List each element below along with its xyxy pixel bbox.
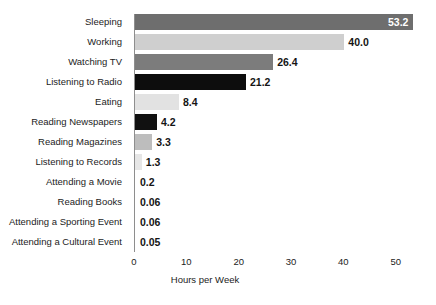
bar-value-label: 1.3	[146, 154, 161, 170]
x-tick-label: 40	[338, 256, 349, 267]
x-tick-label: 50	[390, 256, 401, 267]
bar-row: 8.4	[134, 94, 414, 110]
category-label: Working	[0, 34, 128, 50]
bar-row: 0.2	[134, 174, 414, 190]
bar	[135, 14, 413, 30]
category-label: Attending a Sporting Event	[0, 214, 128, 230]
bar	[135, 94, 179, 110]
bar-row: 1.3	[134, 154, 414, 170]
x-tick-label: 20	[233, 256, 244, 267]
bar	[135, 114, 157, 130]
bar-value-label: 8.4	[183, 94, 198, 110]
bar	[135, 154, 142, 170]
bar-row: 40.0	[134, 34, 414, 50]
category-label: Attending a Movie	[0, 174, 128, 190]
x-axis-title: Hours per Week	[134, 274, 276, 285]
bar-value-label: 21.2	[250, 74, 270, 90]
bar-value-label: 3.3	[156, 134, 171, 150]
bar-row: 3.3	[134, 134, 414, 150]
category-label: Eating	[0, 94, 128, 110]
x-tick-label: 30	[286, 256, 297, 267]
category-label: Listening to Records	[0, 154, 128, 170]
bar-value-label: 53.2	[388, 14, 408, 30]
bar-value-label: 40.0	[348, 34, 368, 50]
bar-row: 0.06	[134, 214, 414, 230]
plot-area: 53.240.026.421.28.44.23.31.30.20.060.060…	[134, 14, 414, 252]
bar-row: 53.2	[134, 14, 414, 30]
bar	[135, 54, 273, 70]
bar-row: 0.05	[134, 234, 414, 250]
category-label: Sleeping	[0, 14, 128, 30]
bar-row: 26.4	[134, 54, 414, 70]
x-axis-ticks: 01020304050	[134, 252, 414, 272]
bar-value-label: 0.06	[140, 214, 160, 230]
category-axis-labels: SleepingWorkingWatching TVListening to R…	[0, 14, 128, 254]
category-label: Watching TV	[0, 54, 128, 70]
category-label: Attending a Cultural Event	[0, 234, 128, 250]
bar-chart: SleepingWorkingWatching TVListening to R…	[0, 0, 436, 305]
x-tick-label: 0	[131, 256, 136, 267]
category-label: Reading Magazines	[0, 134, 128, 150]
bar	[135, 74, 246, 90]
bar-value-label: 0.06	[140, 194, 160, 210]
bar-row: 4.2	[134, 114, 414, 130]
category-label: Reading Newspapers	[0, 114, 128, 130]
category-label: Reading Books	[0, 194, 128, 210]
bar-value-label: 4.2	[161, 114, 176, 130]
category-label: Listening to Radio	[0, 74, 128, 90]
bar-value-label: 26.4	[277, 54, 297, 70]
bar-row: 21.2	[134, 74, 414, 90]
x-tick-label: 10	[181, 256, 192, 267]
bar-value-label: 0.05	[140, 234, 160, 250]
bar-series: 53.240.026.421.28.44.23.31.30.20.060.060…	[134, 14, 414, 250]
bar	[135, 34, 344, 50]
bar	[135, 134, 152, 150]
bar-value-label: 0.2	[140, 174, 155, 190]
bar-row: 0.06	[134, 194, 414, 210]
